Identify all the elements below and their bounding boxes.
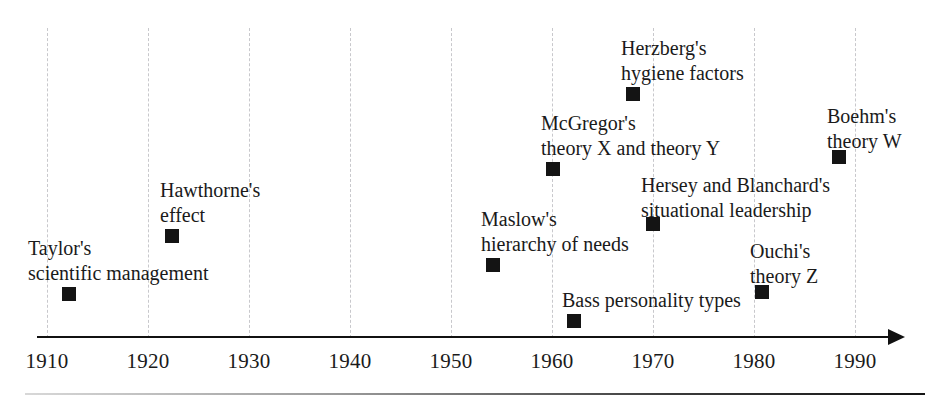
gridline-1920 [148,28,149,338]
gridline-1940 [350,28,351,338]
event-label-line1: Ouchi's [750,240,810,262]
event-label-line2: theory W [827,129,902,154]
event-label-line1: Taylor's [28,237,91,259]
event-label-bass-personality-types: Bass personality types [562,288,741,313]
gridline-1960 [552,28,553,338]
gridline-1950 [451,28,452,338]
event-label-herzberg-hygiene-factors: Herzberg'shygiene factors [621,36,744,86]
event-label-line1: McGregor's [541,112,636,134]
event-label-taylor-scientific-management: Taylor'sscientific management [28,236,208,286]
axis-tick-label-1940: 1940 [329,348,372,374]
management-theories-timeline-figure: 191019201930194019501960197019801990 Tay… [0,0,951,405]
event-label-line1: Maslow's [481,208,557,230]
axis-tick-label-1910: 1910 [26,348,69,374]
event-marker-mcgregor-theory-x-and-theory-y [546,162,560,176]
event-label-line1: Hawthorne's [160,179,260,201]
event-label-boehm-theory-w: Boehm'stheory W [827,104,902,154]
axis-tick-label-1960: 1960 [531,348,574,374]
event-label-mcgregor-theory-x-and-theory-y: McGregor'stheory X and theory Y [541,111,720,161]
event-marker-taylor-scientific-management [62,287,76,301]
axis-tick-label-1920: 1920 [127,348,170,374]
event-label-line1: Hersey and Blanchard's [641,174,830,196]
event-label-line1: Bass personality types [562,289,741,311]
event-label-hersey-and-blanchard-situational-leadership: Hersey and Blanchard'ssituational leader… [641,173,830,223]
event-label-line2: scientific management [28,261,208,286]
event-label-line2: hygiene factors [621,61,744,86]
axis-tick-label-1950: 1950 [430,348,473,374]
axis-tick-label-1930: 1930 [228,348,271,374]
gridline-1990 [855,28,856,338]
bottom-rule-divider [25,393,925,395]
event-label-maslow-hierarchy-of-needs: Maslow'shierarchy of needs [481,207,629,257]
event-marker-bass-personality-types [567,314,581,328]
event-marker-herzberg-hygiene-factors [626,87,640,101]
axis-tick-label-1970: 1970 [632,348,675,374]
event-label-line2: hierarchy of needs [481,232,629,257]
timeline-axis-arrow-icon [888,329,905,345]
event-label-line2: situational leadership [641,198,830,223]
timeline-axis-line [37,336,890,338]
axis-tick-label-1990: 1990 [834,348,877,374]
event-label-line2: theory X and theory Y [541,136,720,161]
axis-tick-label-1980: 1980 [733,348,776,374]
event-label-line2: effect [160,203,260,228]
event-marker-maslow-hierarchy-of-needs [486,258,500,272]
event-marker-hawthorne-effect [165,229,179,243]
gridline-1910 [47,28,48,338]
event-label-line1: Boehm's [827,105,896,127]
event-label-line1: Herzberg's [621,37,706,59]
event-label-line2: theory Z [750,264,818,289]
event-label-hawthorne-effect: Hawthorne'seffect [160,178,260,228]
event-label-ouchi-theory-z: Ouchi'stheory Z [750,239,818,289]
